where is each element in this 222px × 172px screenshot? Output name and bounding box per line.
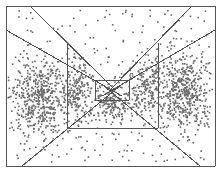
data-point [170, 103, 172, 105]
data-point [183, 115, 185, 117]
data-point [22, 57, 24, 59]
data-point [135, 91, 137, 93]
data-point [162, 122, 164, 124]
data-point [197, 118, 199, 120]
data-point [197, 112, 199, 114]
data-point [90, 88, 92, 90]
data-point [125, 10, 127, 12]
data-point [166, 65, 168, 67]
data-point [74, 65, 76, 67]
data-point [136, 103, 138, 105]
data-point [130, 73, 132, 75]
data-point [127, 95, 129, 97]
data-point [69, 25, 71, 27]
data-point [76, 109, 78, 111]
data-point [21, 76, 23, 78]
data-point [64, 87, 66, 89]
data-point [121, 113, 123, 115]
data-point [72, 84, 74, 86]
data-point [154, 102, 156, 104]
data-point [167, 86, 169, 88]
data-point [105, 48, 107, 50]
data-point [81, 110, 83, 112]
data-point [81, 81, 83, 83]
data-point [23, 64, 25, 66]
data-point [163, 160, 165, 162]
data-point [118, 133, 120, 135]
data-point [17, 79, 19, 81]
data-point [146, 89, 148, 91]
data-point [143, 82, 145, 84]
data-point [71, 89, 73, 91]
data-point [30, 100, 32, 102]
data-point [101, 136, 103, 138]
data-point [93, 76, 95, 78]
data-point [49, 123, 51, 125]
data-point [77, 94, 79, 96]
data-point [71, 104, 73, 106]
data-point [119, 77, 121, 79]
data-point [167, 118, 169, 120]
data-point [29, 68, 31, 70]
data-point [52, 69, 54, 71]
data-point [124, 110, 126, 112]
data-point [168, 50, 170, 52]
data-point [164, 14, 166, 16]
data-point [8, 80, 10, 82]
data-point [155, 77, 157, 79]
data-point [107, 105, 109, 107]
data-point [137, 94, 139, 96]
data-point [32, 61, 34, 63]
data-point [149, 110, 151, 112]
data-point [135, 87, 137, 89]
data-point [75, 95, 77, 97]
data-point [45, 99, 47, 101]
data-point [85, 121, 87, 123]
data-point [200, 60, 202, 62]
data-point [151, 91, 153, 93]
data-point [30, 111, 32, 113]
data-point [55, 85, 57, 87]
data-point [52, 72, 54, 74]
data-point [13, 91, 15, 93]
data-point [27, 85, 29, 87]
data-point [43, 59, 45, 61]
data-point [62, 96, 64, 98]
data-point [12, 63, 14, 65]
data-point [162, 82, 164, 84]
data-point [40, 90, 42, 92]
data-point [33, 128, 35, 130]
data-point [173, 119, 175, 121]
data-point [152, 69, 154, 71]
data-point [38, 90, 40, 92]
data-point [93, 48, 95, 50]
data-point [192, 93, 194, 95]
data-point [175, 60, 177, 62]
data-point [186, 116, 188, 118]
data-point [16, 119, 18, 121]
data-point [72, 101, 74, 103]
data-point [209, 62, 211, 64]
data-point [39, 71, 41, 73]
data-point [8, 77, 10, 79]
data-point [134, 103, 136, 105]
data-point [197, 17, 199, 19]
data-point [128, 160, 130, 162]
data-point [191, 55, 193, 57]
data-point [170, 48, 172, 50]
data-point [51, 161, 53, 163]
data-point [159, 78, 161, 80]
data-point [208, 126, 210, 128]
data-point [62, 75, 64, 77]
data-point [28, 88, 30, 90]
data-point [115, 114, 117, 116]
data-point [46, 81, 48, 83]
data-point [161, 110, 163, 112]
data-point [204, 69, 206, 71]
data-point [65, 93, 67, 95]
data-point [83, 64, 85, 66]
data-point [171, 73, 173, 75]
data-point [115, 30, 117, 32]
data-point [22, 94, 24, 96]
data-point [68, 94, 70, 96]
